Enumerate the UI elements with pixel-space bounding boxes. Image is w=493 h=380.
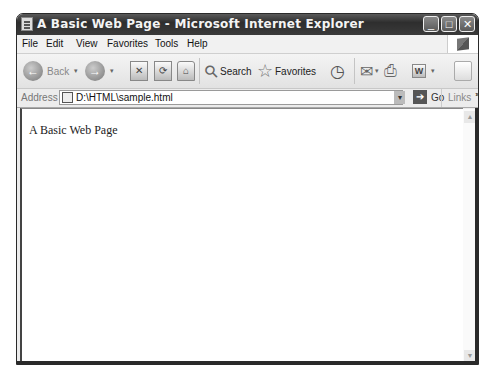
menu-tools[interactable]: Tools [155,38,178,49]
printer-icon: ⎙ [384,62,397,80]
word-icon: W [412,64,426,78]
maximize-button[interactable]: □ [441,16,457,32]
stop-icon: ✕ [130,61,148,81]
address-value: D:\HTML\sample.html [76,92,173,103]
menu-bar: File Edit View Favorites Tools Help [17,35,478,54]
toolbar-separator [199,58,200,84]
ie-page-icon [21,17,33,31]
links-label: Links [448,92,471,103]
menu-view[interactable]: View [76,38,98,49]
window-frame-bottom [17,361,478,364]
mail-dropdown-icon[interactable]: ▾ [375,67,379,75]
ie-window: A Basic Web Page - Microsoft Internet Ex… [16,13,479,365]
edit-with-word-button[interactable]: W ▾ [412,59,435,83]
favorites-label: Favorites [275,66,316,77]
menu-help[interactable]: Help [187,38,208,49]
address-dropdown-button[interactable]: ▾ [394,91,405,104]
favorites-button[interactable]: ☆ Favorites [257,59,316,83]
menu-file[interactable]: File [22,38,38,49]
page-body-text: A Basic Web Page [29,123,117,138]
search-icon: ⚲ [199,59,222,82]
go-button[interactable]: ➔ Go [413,90,444,104]
forward-dropdown-icon[interactable]: ▾ [110,67,114,75]
menu-favorites[interactable]: Favorites [107,38,148,49]
history-button[interactable]: ◷ [330,59,345,83]
page-icon [62,92,73,103]
back-label: Back [47,66,69,77]
chevron-more-icon[interactable]: » [475,90,479,99]
menu-edit[interactable]: Edit [46,38,63,49]
forward-button[interactable]: → ▾ [85,59,114,83]
standard-toolbar: ← Back ▾ → ▾ ✕ ⟳ ⌂ ⚲ Search ☆ Favorites … [17,54,478,89]
search-label: Search [220,66,252,77]
minimize-button[interactable]: _ [423,16,439,32]
favorites-star-icon: ☆ [257,60,273,82]
note-icon [454,61,472,81]
print-button[interactable]: ⎙ [384,59,397,83]
home-icon: ⌂ [177,61,195,81]
stop-button[interactable]: ✕ [130,59,148,83]
mail-button[interactable]: ✉ ▾ [360,59,379,83]
address-bar: Address D:\HTML\sample.html ▾ ➔ Go Links… [17,89,478,108]
title-bar[interactable]: A Basic Web Page - Microsoft Internet Ex… [17,14,478,35]
links-button[interactable]: Links» [441,89,479,107]
back-button[interactable]: ← Back ▾ [23,59,78,83]
refresh-icon: ⟳ [154,61,172,81]
window-frame-right [475,108,478,365]
search-button[interactable]: ⚲ Search [205,59,252,83]
discuss-button[interactable] [454,59,472,83]
back-dropdown-icon[interactable]: ▾ [74,67,78,75]
address-input[interactable]: D:\HTML\sample.html [59,90,403,105]
window-title: A Basic Web Page - Microsoft Internet Ex… [37,17,364,31]
refresh-button[interactable]: ⟳ [154,59,172,83]
home-button[interactable]: ⌂ [177,59,195,83]
mail-icon: ✉ [360,62,373,81]
address-label: Address [21,92,58,103]
windows-logo-icon [447,35,478,53]
page-content: A Basic Web Page ▲ ▼ [20,108,463,363]
forward-arrow-icon: → [85,61,105,81]
back-arrow-icon: ← [23,61,43,81]
edit-dropdown-icon[interactable]: ▾ [431,67,435,75]
close-button[interactable]: ✕ [459,16,475,32]
history-icon: ◷ [330,61,345,82]
toolbar-separator [354,58,355,84]
go-arrow-icon: ➔ [413,90,427,104]
